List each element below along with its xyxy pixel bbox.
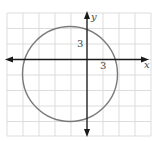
- y-axis-label: y: [90, 11, 97, 22]
- y-axis-up-arrow-icon: [84, 11, 90, 19]
- x-axis-left-arrow-icon: [5, 57, 13, 63]
- y-tick-label: 3: [77, 38, 83, 49]
- x-tick-label: 3: [100, 60, 106, 71]
- x-axis: [5, 57, 149, 63]
- grid: [7, 13, 151, 136]
- coordinate-plane: y x 3 3: [0, 0, 152, 141]
- x-axis-label: x: [144, 59, 150, 70]
